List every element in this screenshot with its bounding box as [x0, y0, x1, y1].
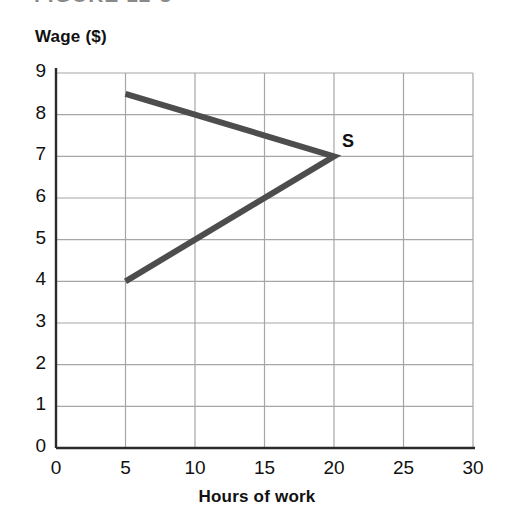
y-tick-label: 6	[22, 185, 46, 207]
x-tick-label: 15	[245, 457, 285, 479]
series-label-s: S	[342, 131, 354, 152]
y-tick-label: 9	[22, 60, 46, 82]
x-tick-label: 25	[384, 457, 424, 479]
supply-curve-line	[126, 94, 335, 282]
x-tick-label: 30	[453, 457, 493, 479]
y-tick-label: 1	[22, 393, 46, 415]
gridlines-vertical	[126, 73, 474, 448]
x-tick-label: 0	[36, 457, 76, 479]
y-tick-label: 0	[22, 435, 46, 457]
chart-plot-area	[0, 0, 514, 531]
series-lines	[126, 94, 335, 282]
y-tick-label: 7	[22, 143, 46, 165]
y-tick-label: 4	[22, 268, 46, 290]
x-tick-label: 20	[314, 457, 354, 479]
x-tick-label: 10	[175, 457, 215, 479]
y-tick-label: 3	[22, 310, 46, 332]
x-tick-label: 5	[106, 457, 146, 479]
x-axis-title: Hours of work	[0, 487, 514, 507]
y-tick-label: 5	[22, 227, 46, 249]
y-tick-label: 8	[22, 102, 46, 124]
axis-lines	[56, 68, 475, 448]
y-tick-label: 2	[22, 352, 46, 374]
